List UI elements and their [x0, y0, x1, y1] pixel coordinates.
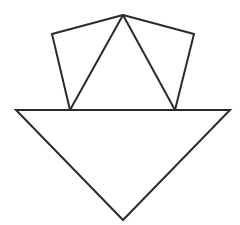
right-diagonal: [123, 15, 175, 110]
left-diagonal: [70, 15, 123, 110]
right-quadrilateral: [123, 15, 194, 110]
inverted-triangle: [16, 110, 230, 220]
geometric-figure: [0, 0, 240, 225]
diagram-canvas: [0, 0, 240, 225]
left-quadrilateral: [52, 15, 123, 110]
